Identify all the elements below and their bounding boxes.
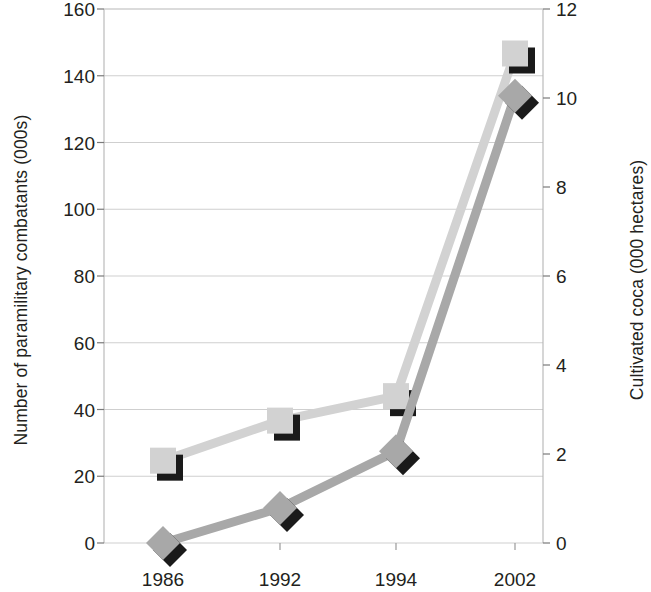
plot-area: [0, 0, 651, 592]
marker-square: [502, 41, 528, 67]
data-point-1994: [379, 434, 420, 475]
marker-square: [267, 408, 293, 434]
marker-square: [383, 383, 409, 409]
series-1: [150, 41, 535, 481]
data-point-1992: [267, 408, 300, 441]
data-point-1986: [146, 526, 187, 567]
chart-container: Number of paramilitary combatants (000s)…: [0, 0, 651, 592]
marker-square: [150, 448, 176, 474]
